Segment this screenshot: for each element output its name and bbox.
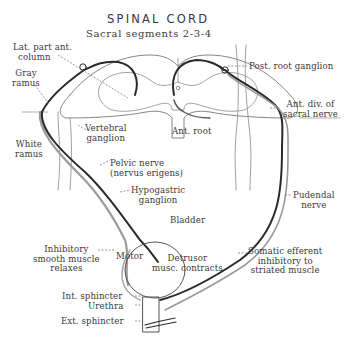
label-bladder: Bladder <box>170 216 205 226</box>
ant-root-path <box>174 100 210 118</box>
ext-sphincter-fibers <box>145 318 176 328</box>
right-efferent-loop <box>173 60 224 95</box>
label-detrusor: Detrusor musc. contracts <box>152 254 223 273</box>
label-somatic-efferent: Somatic efferent inhibitory to striated … <box>248 247 322 276</box>
label-pudendal-nerve: Pudendal nerve <box>293 191 335 210</box>
diagram-subtitle: Sacral segments 2-3-4 <box>86 28 212 39</box>
label-gray-ramus: Gray ramus <box>12 69 40 88</box>
central-canal <box>176 86 180 90</box>
label-white-ramus: White ramus <box>15 140 43 159</box>
leader-hypogastric <box>120 190 130 192</box>
sympathetic-trunk-left-2 <box>70 118 72 190</box>
sympathetic-trunk-right <box>235 45 238 190</box>
left-ganglion-circle <box>80 64 86 70</box>
spinal-cord-bladder-diagram: SPINAL CORD Sacral segments 2-3-4 Lat. p… <box>0 0 357 342</box>
label-ant-div-sacral-nerve: Ant. div. of sacral nerve <box>283 100 338 119</box>
label-post-root-ganglion: Post. root ganglion <box>249 62 333 72</box>
label-urethra: Urethra <box>88 302 123 312</box>
label-ext-sphincter: Ext. sphincter <box>61 317 124 327</box>
label-ant-root: Ant. root <box>172 127 211 137</box>
label-vertebral-ganglion: Vertebral ganglion <box>85 124 127 143</box>
left-efferent-loop <box>84 62 137 95</box>
label-inhibitory-smooth-muscle: Inhibitory smooth muscle relaxes <box>33 245 100 274</box>
label-lat-part-ant-column: Lat. part ant. column <box>13 43 72 62</box>
leader-pelvic <box>100 160 110 165</box>
diagram-title: SPINAL CORD <box>107 12 209 26</box>
label-hypogastric-ganglion: Hypogastric ganglion <box>131 186 185 205</box>
label-pelvic-nerve: Pelvic nerve (nervus erigens) <box>110 159 183 178</box>
label-motor: Motor <box>116 252 143 262</box>
